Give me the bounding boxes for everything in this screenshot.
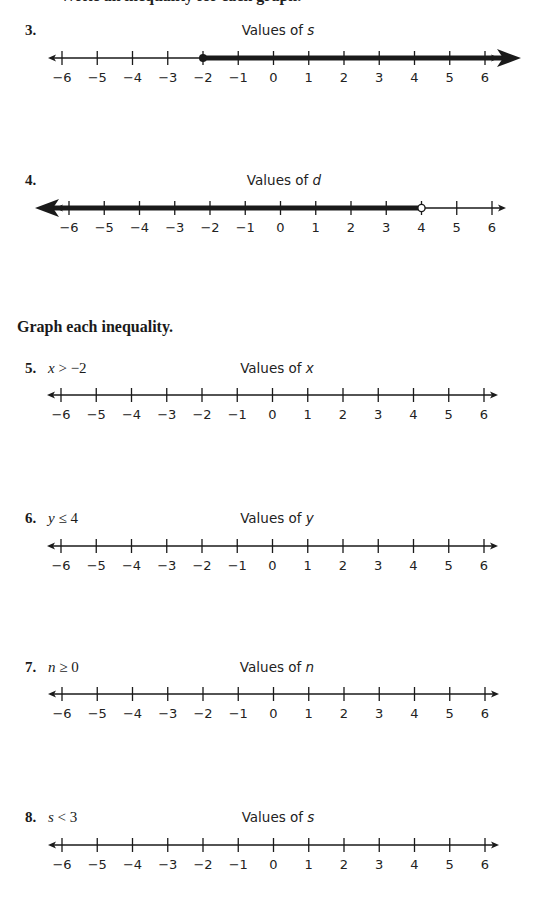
tick-label: 6	[481, 70, 489, 85]
tick-label: −4	[123, 706, 142, 721]
problem-8: 8. s < 3 Values of s −6−5−4−3−2−10123456	[0, 809, 541, 889]
tick-label: −6	[52, 706, 71, 721]
tick-label: −4	[122, 407, 141, 422]
tick-label: 2	[339, 407, 347, 422]
tick-label: −6	[52, 857, 71, 872]
tick-label: 5	[445, 558, 453, 573]
tick-label: −2	[192, 558, 211, 573]
tick-label: −3	[158, 70, 177, 85]
tick-label: 3	[375, 70, 383, 85]
tick-label: 0	[269, 857, 277, 872]
tick-label: 5	[445, 407, 453, 422]
tick-label: 3	[382, 220, 390, 235]
tick-label: 5	[446, 70, 454, 85]
tick-label: −4	[123, 857, 142, 872]
tick-label: 6	[481, 857, 489, 872]
problem-7: 7. n ≥ 0 Values of n −6−5−4−3−2−10123456	[0, 659, 541, 739]
cut-off-instruction: Write an inequality for each graph.	[60, 0, 301, 5]
tick-label: −2	[192, 407, 211, 422]
tick-label: −4	[123, 70, 142, 85]
number-line[interactable]: −6−5−4−3−2−10123456	[0, 360, 541, 430]
problem-4: 4. Values of d −6−5−4−3−2−10123456	[0, 172, 541, 252]
tick-label: −2	[193, 70, 212, 85]
tick-label: −2	[193, 857, 212, 872]
problem-3: 3. Values of s −6−5−4−3−2−10123456	[0, 22, 541, 102]
tick-label: −3	[158, 706, 177, 721]
closed-dot-icon	[199, 54, 207, 62]
tick-label: 4	[417, 220, 425, 235]
tick-label: 5	[453, 220, 461, 235]
number-line[interactable]: −6−5−4−3−2−10123456	[0, 172, 541, 242]
tick-label: 0	[269, 706, 277, 721]
tick-label: 4	[410, 70, 418, 85]
tick-label: −6	[59, 220, 78, 235]
tick-label: 6	[480, 407, 488, 422]
tick-label: 0	[276, 220, 284, 235]
tick-label: 1	[305, 706, 313, 721]
tick-label: 1	[305, 70, 313, 85]
tick-label: −1	[228, 558, 247, 573]
tick-label: 1	[304, 558, 312, 573]
tick-label: −3	[158, 857, 177, 872]
tick-label: 3	[375, 857, 383, 872]
tick-label: −4	[130, 220, 149, 235]
tick-label: −6	[51, 558, 70, 573]
tick-label: 6	[480, 558, 488, 573]
number-line[interactable]: −6−5−4−3−2−10123456	[0, 809, 541, 879]
tick-label: 0	[268, 407, 276, 422]
tick-label: 4	[409, 407, 417, 422]
tick-label: −5	[88, 70, 107, 85]
tick-label: 5	[446, 706, 454, 721]
tick-label: −4	[122, 558, 141, 573]
tick-label: 2	[347, 220, 355, 235]
tick-label: 2	[340, 857, 348, 872]
open-circle-icon	[418, 204, 425, 211]
tick-label: 0	[269, 70, 277, 85]
tick-label: 2	[340, 706, 348, 721]
tick-label: 0	[268, 558, 276, 573]
tick-label: −1	[228, 407, 247, 422]
tick-label: −5	[87, 558, 106, 573]
tick-label: −5	[95, 220, 114, 235]
tick-label: 3	[374, 407, 382, 422]
tick-label: −3	[157, 558, 176, 573]
tick-label: −1	[236, 220, 255, 235]
tick-label: 5	[446, 857, 454, 872]
tick-label: −1	[229, 706, 248, 721]
tick-label: 6	[481, 706, 489, 721]
number-line[interactable]: −6−5−4−3−2−10123456	[0, 510, 541, 580]
problem-5: 5. x > −2 Values of x −6−5−4−3−2−1012345…	[0, 360, 541, 440]
tick-label: 6	[488, 220, 496, 235]
tick-label: 2	[339, 558, 347, 573]
tick-label: −5	[88, 857, 107, 872]
section-heading: Graph each inequality.	[17, 318, 173, 336]
tick-label: −1	[229, 857, 248, 872]
tick-label: 4	[410, 706, 418, 721]
tick-label: 1	[312, 220, 320, 235]
tick-label: −6	[51, 407, 70, 422]
tick-label: −2	[200, 220, 219, 235]
tick-label: −6	[52, 70, 71, 85]
tick-label: 3	[374, 558, 382, 573]
problem-6: 6. y ≤ 4 Values of y −6−5−4−3−2−10123456	[0, 510, 541, 590]
tick-label: 4	[409, 558, 417, 573]
tick-label: −5	[88, 706, 107, 721]
tick-label: 2	[340, 70, 348, 85]
tick-label: −3	[165, 220, 184, 235]
tick-label: 3	[375, 706, 383, 721]
tick-label: 1	[305, 857, 313, 872]
tick-label: −3	[157, 407, 176, 422]
tick-label: −2	[193, 706, 212, 721]
tick-label: 4	[410, 857, 418, 872]
tick-label: 1	[304, 407, 312, 422]
tick-label: −5	[87, 407, 106, 422]
tick-label: −1	[229, 70, 248, 85]
number-line[interactable]: −6−5−4−3−2−10123456	[0, 22, 541, 92]
number-line[interactable]: −6−5−4−3−2−10123456	[0, 659, 541, 729]
